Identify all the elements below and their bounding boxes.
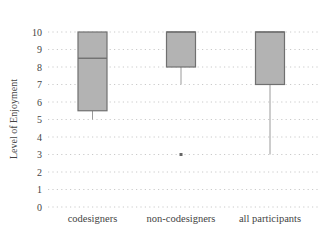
y-tick-label: 6 <box>37 97 42 108</box>
y-tick-label: 0 <box>37 202 42 213</box>
box-all-participants <box>256 32 285 155</box>
y-tick-label: 3 <box>37 149 42 160</box>
box-iqr <box>256 32 285 85</box>
y-tick-label: 10 <box>32 27 42 38</box>
box-plot-chart: 012345678910 codesignersnon-codesignersa… <box>0 0 330 234</box>
y-tick-label: 4 <box>37 132 42 143</box>
box-iqr <box>78 32 107 111</box>
boxes <box>78 32 285 156</box>
y-tick-label: 7 <box>37 79 42 90</box>
x-category-label: codesigners <box>68 213 118 224</box>
x-category-label: non-codesigners <box>147 213 216 224</box>
box-codesigners <box>78 32 107 120</box>
y-tick-label: 5 <box>37 114 42 125</box>
y-axis-label: Level of Enjoyment <box>8 79 19 159</box>
x-category-label: all participants <box>239 213 301 224</box>
y-axis-ticks: 012345678910 <box>32 27 42 213</box>
y-tick-label: 1 <box>37 184 42 195</box>
y-tick-label: 9 <box>37 44 42 55</box>
box-iqr <box>167 32 196 67</box>
x-axis-categories: codesignersnon-codesignersall participan… <box>68 213 301 224</box>
y-tick-label: 8 <box>37 62 42 73</box>
outlier-point <box>180 153 183 156</box>
y-tick-label: 2 <box>37 167 42 178</box>
